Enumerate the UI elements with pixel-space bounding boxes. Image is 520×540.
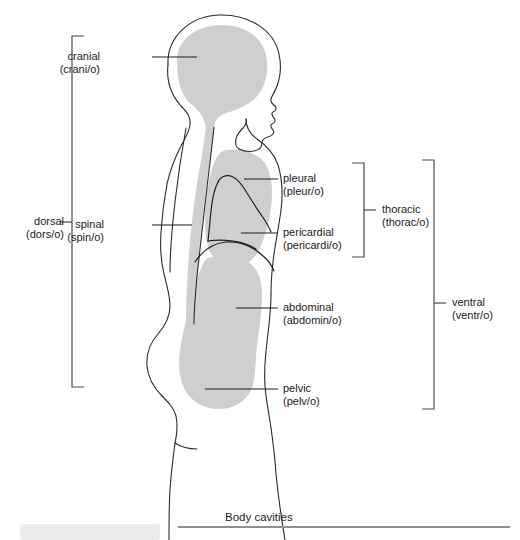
cavity-term-cranial: cranial (0, 50, 100, 63)
region-root-dorsal: (dors/o) (0, 228, 64, 241)
region-root-ventral: (ventr/o) (452, 309, 493, 322)
region-term-ventral: ventral (452, 296, 493, 309)
region-root-thoracic: (thorac/o) (382, 216, 429, 229)
cavity-root-cranial: (crani/o) (0, 63, 100, 76)
posterior-body-wall-line (170, 128, 186, 272)
region-term-thoracic: thoracic (382, 203, 429, 216)
cavity-term-pericardial: pericardial (283, 226, 342, 239)
cavity-fills (177, 25, 272, 409)
jaw-neck-front-outline (236, 119, 247, 149)
region-label-ventral: ventral(ventr/o) (452, 296, 493, 322)
cavity-label-pericardial: pericardial(pericardi/o) (283, 226, 342, 252)
groin-outline (175, 443, 197, 449)
cavity-term-abdominal: abdominal (283, 301, 342, 314)
region-term-dorsal: dorsal (0, 215, 64, 228)
bracket-path-ventral (422, 160, 434, 409)
buttock-thigh-outline (162, 396, 177, 443)
cranial-cavity-shape (177, 25, 267, 127)
bracket-thoracic (352, 163, 376, 257)
cavity-term-pelvic: pelvic (283, 382, 320, 395)
thoracic-cavity-shape (205, 149, 272, 266)
cavity-root-pleural: (pleur/o) (283, 185, 324, 198)
cavity-term-pleural: pleural (283, 172, 324, 185)
rear-leg-outline (169, 443, 175, 540)
cavity-label-cranial: cranial(crani/o) (0, 50, 100, 76)
cavity-root-pericardial: (pericardi/o) (283, 239, 342, 252)
cavity-root-pelvic: (pelv/o) (283, 395, 320, 408)
region-label-dorsal: dorsal(dors/o) (0, 215, 64, 241)
body-cavities-diagram (0, 0, 520, 540)
bracket-path-thoracic (352, 163, 364, 257)
figure-caption: Body cavities (225, 511, 293, 523)
cavity-label-abdominal: abdominal(abdomin/o) (283, 301, 342, 327)
front-leg-outline (271, 428, 285, 540)
cavity-label-pleural: pleural(pleur/o) (283, 172, 324, 198)
bracket-path-dorsal (72, 36, 84, 387)
cavity-root-abdominal: (abdomin/o) (283, 314, 342, 327)
bracket-ventral (422, 160, 446, 409)
footer-placeholder-block (20, 524, 160, 540)
abdomen-front-outline (265, 294, 271, 428)
cavity-label-pelvic: pelvic(pelv/o) (283, 382, 320, 408)
region-label-thoracic: thoracic(thorac/o) (382, 203, 429, 229)
bracket-dorsal (60, 36, 84, 387)
back-outline (147, 184, 170, 396)
